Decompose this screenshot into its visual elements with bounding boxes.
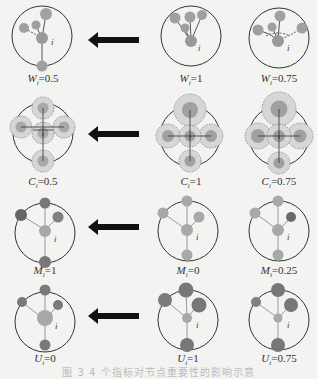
- figure-caption: 图 3 4 个指标对节点重要性的影响示意: [0, 364, 317, 379]
- svg-text:i: i: [51, 37, 54, 47]
- panel-m-right: i: [249, 196, 309, 262]
- panel-w-right: i: [249, 8, 309, 68]
- svg-text:i: i: [42, 129, 44, 138]
- label-c-middle: Ci=1: [156, 175, 226, 190]
- svg-text:i: i: [196, 320, 199, 330]
- label-c-right: Ci=0.75: [244, 175, 314, 190]
- svg-text:i: i: [287, 320, 290, 330]
- svg-text:i: i: [54, 234, 57, 244]
- svg-text:i: i: [196, 232, 199, 242]
- label-m-right: Mi=0.25: [244, 264, 314, 279]
- left-arrow-icon: [88, 126, 139, 142]
- svg-text:i: i: [198, 43, 201, 53]
- left-arrow-icon: [88, 308, 139, 324]
- label-c-left: Ci=0.5: [8, 175, 78, 190]
- label-m-middle: Mi=0: [153, 264, 223, 279]
- panel-c-left: i: [10, 97, 75, 172]
- svg-text:i: i: [55, 321, 58, 331]
- panel-m-middle: i: [158, 196, 219, 262]
- svg-text:i: i: [287, 232, 290, 242]
- label-w-middle: Wi=1: [156, 72, 226, 87]
- panel-u-right: i: [249, 283, 309, 352]
- panel-u-left: i: [15, 285, 75, 353]
- panel-w-left: i: [12, 6, 72, 72]
- label-m-left: Mi=1: [10, 264, 80, 279]
- panel-c-middle: i: [156, 94, 223, 172]
- left-arrow-icon: [88, 219, 139, 235]
- svg-text:i: i: [278, 132, 280, 141]
- label-w-left: Wi=0.5: [8, 72, 78, 87]
- panel-c-right: i: [245, 92, 313, 174]
- panel-w-middle: i: [161, 6, 221, 66]
- panel-m-left: i: [15, 198, 75, 269]
- left-arrow-icon: [88, 32, 139, 48]
- svg-text:i: i: [189, 132, 191, 141]
- label-w-right: Wi=0.75: [244, 72, 314, 87]
- panel-u-middle: i: [158, 283, 218, 353]
- svg-text:i: i: [287, 43, 290, 53]
